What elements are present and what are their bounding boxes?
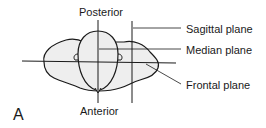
sagittal-plane-label: Sagittal plane [186,24,253,35]
median-plane-label: Median plane [186,45,252,56]
body-planes-diagram [0,0,266,128]
anterior-label: Anterior [80,106,119,117]
posterior-label: Posterior [79,7,123,18]
panel-label: A [13,107,24,123]
frontal-plane-label: Frontal plane [186,80,250,91]
